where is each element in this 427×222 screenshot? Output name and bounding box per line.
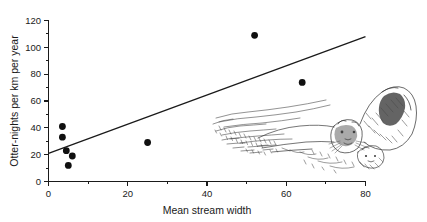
y-tick-label-20: 20 (30, 149, 41, 160)
x-axis-title: Mean stream width (163, 204, 252, 216)
x-tick-label-80: 80 (360, 188, 371, 199)
y-tick-label-0: 0 (36, 176, 41, 187)
data-point (59, 134, 66, 141)
y-tick-label-100: 100 (25, 42, 41, 53)
data-point (59, 123, 66, 130)
y-tick-label-120: 120 (25, 15, 41, 26)
data-point (299, 79, 306, 86)
y-tick-label-60: 60 (30, 95, 41, 106)
y-tick-label-40: 40 (30, 122, 41, 133)
data-point (69, 153, 76, 160)
data-point (251, 32, 258, 39)
y-tick-label-80: 80 (30, 68, 41, 79)
data-point (144, 139, 151, 146)
data-point (65, 162, 72, 169)
x-tick-label-40: 40 (202, 188, 213, 199)
data-point (63, 147, 70, 154)
x-tick-label-0: 0 (46, 188, 51, 199)
x-tick-label-20: 20 (123, 188, 134, 199)
y-axis-title: Otter-nights per km per year (8, 35, 20, 167)
x-tick-label-60: 60 (281, 188, 292, 199)
scatter-plot-figure: 0 20 40 60 80 100 120 0 20 40 60 80 Mean… (0, 0, 427, 222)
